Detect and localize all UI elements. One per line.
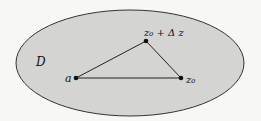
label-z0-dz: z₀ + Δ z xyxy=(143,27,184,38)
point-z0 xyxy=(179,76,184,81)
region-label: D xyxy=(35,55,46,69)
label-a: a xyxy=(65,72,72,85)
diagram-canvas: D a z₀ z₀ + Δ z xyxy=(0,0,261,121)
region-d-ellipse xyxy=(16,10,244,116)
label-z0: z₀ xyxy=(185,74,195,85)
point-z0-dz xyxy=(144,39,149,44)
diagram-svg: D a z₀ z₀ + Δ z xyxy=(0,0,261,121)
point-a xyxy=(74,76,79,81)
